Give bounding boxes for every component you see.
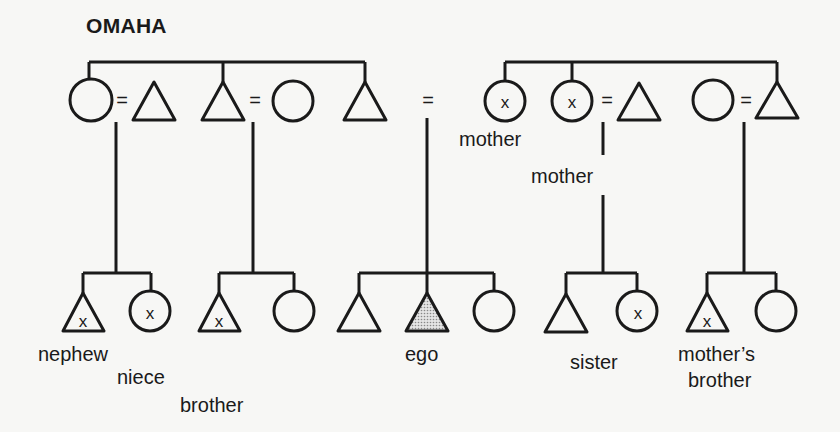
male-symbol (618, 83, 660, 120)
lower-sibling-bar (566, 273, 637, 294)
male-symbol (756, 82, 798, 118)
lower-sibling-bar (83, 273, 151, 293)
marriage-sign: = (116, 89, 128, 111)
label-brother: brother (180, 394, 243, 417)
upper-left-sibling-bar (89, 62, 365, 82)
label-niece: niece (117, 366, 165, 389)
male-symbol (202, 82, 244, 120)
x-mark-icon: x (634, 304, 643, 323)
female-symbol (756, 291, 796, 331)
marriage-sign: = (249, 89, 261, 111)
x-mark-icon: x (146, 304, 155, 323)
label-mothers-brother: mother’s (678, 343, 755, 366)
marriage-sign: = (601, 89, 613, 111)
label-nephew: nephew (38, 343, 108, 366)
label-sister: sister (570, 351, 618, 374)
ego-symbol (406, 293, 448, 331)
female-symbol (693, 80, 733, 120)
label-mothers-brother: brother (688, 369, 751, 392)
label-mother: mother (531, 165, 593, 188)
female-symbol (474, 291, 514, 331)
upper-right-sibling-bar (505, 62, 777, 82)
x-mark-icon: x (703, 312, 712, 331)
x-mark-icon: x (215, 312, 224, 331)
female-symbol (273, 81, 313, 121)
x-mark-icon: x (79, 312, 88, 331)
male-symbol (133, 82, 175, 120)
x-mark-icon: x (501, 93, 510, 112)
label-mother: mother (459, 128, 521, 151)
male-symbol (344, 82, 386, 120)
female-symbol (70, 79, 112, 121)
male-symbol (545, 294, 587, 332)
marriage-sign: = (740, 89, 752, 111)
x-mark-icon: x (568, 93, 577, 112)
female-symbol (274, 291, 314, 331)
label-ego: ego (405, 343, 438, 366)
lower-sibling-bar (707, 273, 776, 293)
marriage-sign: = (422, 89, 434, 111)
lower-sibling-bar (219, 273, 294, 293)
male-symbol (338, 293, 380, 331)
